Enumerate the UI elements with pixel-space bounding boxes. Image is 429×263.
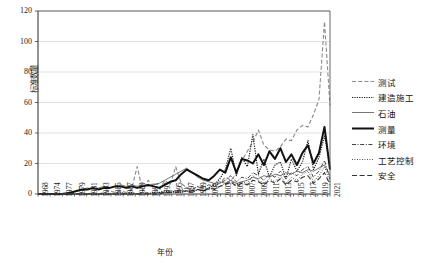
x-tick-label: 1968	[41, 182, 50, 197]
x-tick-label: 1974	[53, 182, 62, 197]
x-tick-label: 2015	[297, 182, 306, 197]
legend-label: 测量	[378, 123, 396, 135]
x-tick-label: 1979	[78, 182, 87, 197]
y-tick-label: 60	[6, 98, 32, 107]
x-tick-label: 2003	[224, 182, 233, 197]
x-tick-label: 1987	[126, 182, 135, 197]
y-tick-label: 0	[6, 189, 32, 198]
x-tick-label: 1981	[90, 182, 99, 197]
legend-label: 安全	[378, 169, 396, 181]
x-tick-label: 1995	[175, 182, 184, 197]
legend-line-icon	[352, 124, 374, 133]
series-line-0	[38, 22, 330, 194]
y-tick-label: 40	[6, 128, 32, 137]
x-tick-label: 1977	[65, 182, 74, 197]
legend-line-icon	[352, 155, 374, 164]
legend-label: 石油	[378, 107, 396, 119]
legend-label: 建造施工	[378, 91, 414, 103]
legend-label: 环境	[378, 138, 396, 150]
legend-item[interactable]: 石油	[352, 105, 429, 121]
x-tick-label: 2017	[309, 182, 318, 197]
legend-item[interactable]: 建造施工	[352, 90, 429, 106]
legend-item[interactable]: 测试	[352, 74, 429, 90]
x-tick-label: 2007	[248, 182, 257, 197]
legend-label: 测试	[378, 76, 396, 88]
legend-item[interactable]: 环境	[352, 136, 429, 152]
legend-item[interactable]: 工艺控制	[352, 152, 429, 168]
x-tick-label: 1983	[102, 182, 111, 197]
x-tick-label: 2021	[333, 182, 342, 197]
x-tick-label: 1985	[114, 182, 123, 197]
x-tick-label: 2005	[236, 182, 245, 197]
legend-line-icon	[352, 140, 374, 149]
chart-legend: 测试建造施工石油测量环境工艺控制安全	[352, 74, 429, 183]
x-tick-label: 2009	[260, 182, 269, 197]
x-tick-label: 1997	[187, 182, 196, 197]
x-tick-label: 1991	[151, 182, 160, 197]
x-tick-label: 1999	[199, 182, 208, 197]
x-tick-label: 2013	[284, 182, 293, 197]
x-axis-title: 年份	[0, 246, 330, 257]
legend-item[interactable]: 安全	[352, 168, 429, 184]
legend-item[interactable]: 测量	[352, 121, 429, 137]
legend-line-icon	[352, 171, 374, 180]
chart-root: 标准数量 020406080100120 1968197419771979198…	[0, 0, 429, 263]
x-tick-label: 1993	[163, 182, 172, 197]
x-tick-label: 1989	[138, 182, 147, 197]
legend-line-icon	[352, 93, 374, 102]
y-tick-label: 80	[6, 67, 32, 76]
x-tick-label: 2001	[211, 182, 220, 197]
x-tick-label: 2011	[272, 182, 281, 197]
y-tick-label: 120	[6, 6, 32, 15]
y-tick-label: 100	[6, 37, 32, 46]
x-tick-label: 2019	[321, 182, 330, 197]
legend-line-icon	[352, 108, 374, 117]
y-tick-label: 20	[6, 159, 32, 168]
legend-label: 工艺控制	[378, 154, 414, 166]
legend-line-icon	[352, 77, 374, 86]
